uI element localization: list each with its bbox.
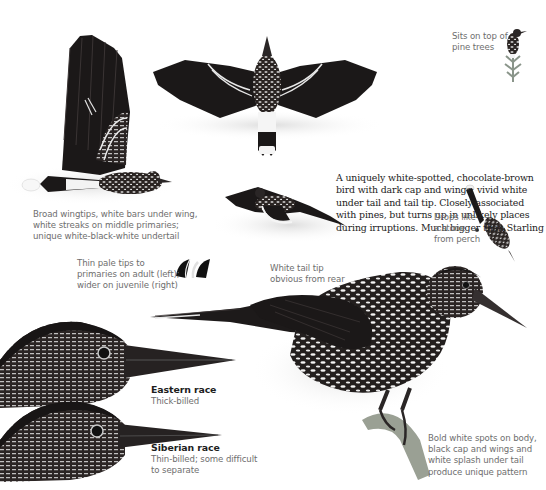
flying-bird-from-above-icon	[153, 36, 385, 156]
race-label-siberian: Siberian race Thin-billed; some difficul…	[151, 442, 257, 476]
race-subtitle: Thin-billed; some difficult	[151, 454, 257, 465]
caption-line: produce unique pattern	[428, 467, 537, 478]
race-title: Eastern race	[151, 384, 216, 396]
caption-line: white splash under tail	[428, 455, 537, 466]
caption-dropping: Drops like a stone from perch	[434, 212, 480, 246]
wingtip-juvenile-icon	[193, 259, 210, 278]
caption-line: from perch	[434, 234, 480, 245]
caption-line: obvious from rear	[270, 274, 345, 285]
caption-flight-side: Broad wingtips, white bars under wing, w…	[33, 209, 197, 243]
caption-line: primaries on adult (left);	[77, 269, 179, 280]
race-subtitle: Thick-billed	[151, 396, 216, 407]
caption-line: Drops like	[434, 212, 480, 223]
caption-flight-rear: White tail tip obvious from rear	[270, 263, 345, 285]
caption-line: Bold white spots on body,	[428, 433, 537, 444]
caption-line: Sits on top of	[452, 31, 508, 42]
race-label-eastern: Eastern race Thick-billed	[151, 384, 216, 407]
caption-line: White tail tip	[270, 263, 345, 274]
flying-bird-side-view-icon	[5, 35, 175, 205]
caption-line: unique white-black-white undertail	[33, 231, 197, 242]
race-title: Siberian race	[151, 442, 257, 454]
caption-line: Thin pale tips to	[77, 258, 179, 269]
caption-line: Broad wingtips, white bars under wing,	[33, 209, 197, 220]
caption-primary-tips: Thin pale tips to primaries on adult (le…	[77, 258, 179, 292]
caption-perching-top: Sits on top of pine trees	[452, 31, 508, 53]
caption-line: wider on juvenile (right)	[77, 280, 179, 291]
caption-line: a stone	[434, 223, 480, 234]
caption-line: white streaks on middle primaries;	[33, 220, 197, 231]
caption-perched-main: Bold white spots on body, black cap and …	[428, 433, 537, 478]
caption-line: pine trees	[452, 42, 508, 53]
race-subtitle: to separate	[151, 465, 257, 476]
bird-on-pine-top-icon	[505, 29, 527, 82]
caption-line: black cap and wings and	[428, 444, 537, 455]
